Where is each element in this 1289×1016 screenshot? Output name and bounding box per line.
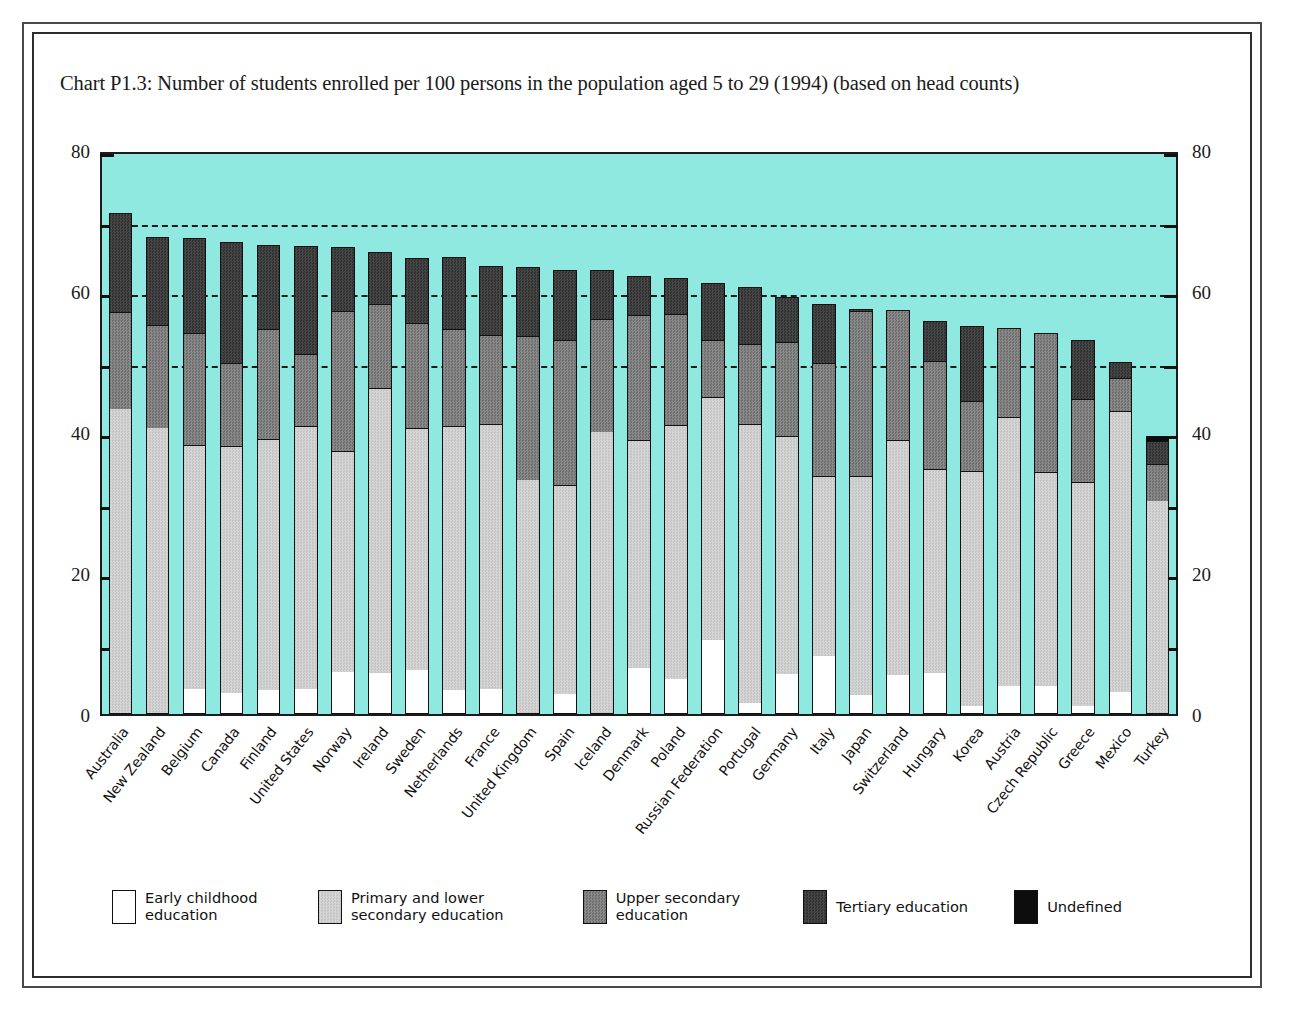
x-label-slot: Switzerland — [881, 720, 918, 850]
stacked-bar[interactable] — [442, 257, 466, 714]
bar-segment-upper — [294, 354, 318, 425]
bar-slot — [917, 154, 954, 714]
bar-segment-primary — [1146, 501, 1170, 714]
x-axis-tick-label: Korea — [949, 724, 986, 765]
stacked-bar[interactable] — [886, 310, 910, 714]
stacked-bar[interactable] — [553, 270, 577, 714]
bar-segment-early — [553, 694, 577, 714]
legend-item-upper[interactable]: Upper secondary education — [583, 890, 794, 924]
bars-container — [102, 154, 1176, 714]
legend-label: Upper secondary education — [616, 890, 740, 924]
bar-segment-early — [331, 672, 355, 714]
bar-segment-upper — [1146, 464, 1170, 501]
stacked-bar[interactable] — [220, 242, 244, 714]
legend-item-tertiary[interactable]: Tertiary education — [803, 890, 1004, 924]
stacked-bar[interactable] — [997, 328, 1021, 714]
x-label-slot: Korea — [955, 720, 992, 850]
bar-slot — [1065, 154, 1102, 714]
stacked-bar[interactable] — [257, 245, 281, 715]
bar-segment-upper — [775, 342, 799, 436]
stacked-bar[interactable] — [479, 266, 503, 714]
bar-segment-upper — [553, 340, 577, 485]
stacked-bar[interactable] — [1146, 436, 1170, 714]
bar-segment-early — [405, 670, 429, 714]
stacked-bar[interactable] — [923, 321, 947, 714]
bar-segment-primary — [257, 439, 281, 690]
stacked-bar[interactable] — [516, 267, 540, 714]
bar-slot — [657, 154, 694, 714]
stacked-bar[interactable] — [701, 283, 725, 714]
stacked-bar[interactable] — [109, 213, 133, 714]
bar-segment-tertiary — [738, 287, 762, 344]
bar-segment-primary — [1109, 411, 1133, 692]
stacked-bar[interactable] — [368, 252, 392, 714]
bar-segment-primary — [294, 426, 318, 689]
bar-segment-upper — [1109, 378, 1133, 410]
bar-segment-upper — [220, 363, 244, 446]
bar-segment-upper — [1034, 333, 1058, 471]
chart-page: Chart P1.3: Number of students enrolled … — [0, 0, 1289, 1016]
bar-slot — [213, 154, 250, 714]
x-label-slot: Norway — [323, 720, 360, 850]
bar-segment-tertiary — [368, 252, 392, 305]
bar-segment-upper — [923, 361, 947, 470]
bar-segment-early — [997, 686, 1021, 714]
bar-segment-early — [627, 668, 651, 714]
stacked-bar[interactable] — [812, 304, 836, 714]
bar-segment-tertiary — [923, 321, 947, 361]
bar-segment-tertiary — [627, 276, 651, 315]
legend-item-undefined[interactable]: Undefined — [1014, 890, 1122, 924]
x-label-slot: Mexico — [1104, 720, 1141, 850]
bar-segment-upper — [479, 335, 503, 424]
x-axis-labels: AustraliaNew ZealandBelgiumCanadaFinland… — [100, 720, 1178, 850]
bar-segment-primary — [553, 485, 577, 694]
stacked-bar[interactable] — [960, 326, 984, 714]
bar-segment-primary — [738, 424, 762, 703]
x-label-slot: Ireland — [360, 720, 397, 850]
bar-segment-early — [738, 703, 762, 714]
stacked-bar[interactable] — [405, 258, 429, 714]
bar-segment-primary — [220, 446, 244, 693]
chart-legend: Early childhood educationPrimary and low… — [112, 890, 1132, 924]
stacked-bar[interactable] — [1034, 333, 1058, 714]
stacked-bar[interactable] — [627, 276, 651, 714]
bar-segment-tertiary — [294, 246, 318, 355]
stacked-bar[interactable] — [775, 297, 799, 714]
stacked-bar[interactable] — [590, 270, 614, 714]
bar-segment-primary — [627, 440, 651, 668]
stacked-bar[interactable] — [738, 287, 762, 714]
bar-segment-upper — [257, 329, 281, 439]
bar-segment-early — [257, 690, 281, 714]
bar-slot — [139, 154, 176, 714]
stacked-bar[interactable] — [146, 237, 170, 714]
y-axis-tick-label-right: 0 — [1192, 705, 1202, 727]
bar-segment-upper — [701, 340, 725, 397]
bar-segment-early — [1109, 692, 1133, 714]
x-label-slot: Portugal — [732, 720, 769, 850]
bar-segment-upper — [516, 336, 540, 480]
y-axis-tick-label-left: 0 — [81, 705, 91, 727]
bar-slot — [324, 154, 361, 714]
stacked-bar[interactable] — [331, 247, 355, 714]
legend-swatch-early — [112, 890, 136, 924]
y-axis-tick-label-left: 40 — [71, 423, 90, 445]
bar-slot — [732, 154, 769, 714]
bar-slot — [1028, 154, 1065, 714]
bar-slot — [880, 154, 917, 714]
stacked-bar[interactable] — [1071, 340, 1095, 714]
stacked-bar[interactable] — [294, 246, 318, 714]
bar-segment-early — [812, 656, 836, 715]
stacked-bar[interactable] — [664, 278, 688, 714]
bar-segment-tertiary — [183, 238, 207, 333]
bar-segment-primary — [775, 436, 799, 674]
bar-slot — [361, 154, 398, 714]
bar-segment-tertiary — [220, 242, 244, 363]
bar-segment-tertiary — [405, 258, 429, 324]
stacked-bar[interactable] — [183, 238, 207, 714]
bar-segment-early — [701, 640, 725, 714]
legend-item-early[interactable]: Early childhood education — [112, 890, 308, 924]
legend-item-primary[interactable]: Primary and lower secondary education — [318, 890, 573, 924]
bar-segment-upper — [886, 310, 910, 440]
stacked-bar[interactable] — [1109, 362, 1133, 714]
stacked-bar[interactable] — [849, 309, 873, 714]
